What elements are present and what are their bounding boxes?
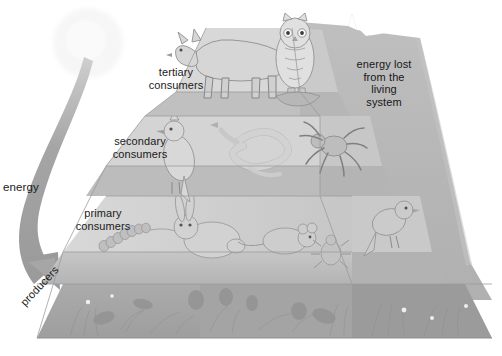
label-secondary-consumers: secondary consumers: [92, 135, 188, 160]
tier-producers: [37, 284, 492, 338]
pyramid-illustration: [0, 0, 502, 356]
label-energy: energy: [3, 181, 59, 194]
label-primary-consumers: primary consumers: [55, 207, 151, 232]
label-tertiary-consumers: tertiary consumers: [128, 66, 224, 91]
energy-pyramid-diagram: tertiary consumers secondary consumers p…: [0, 0, 502, 356]
label-energy-lost: energy lost from the living system: [341, 58, 427, 108]
